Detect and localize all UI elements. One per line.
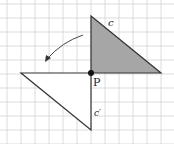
label-p: P: [93, 76, 101, 89]
image-triangle-c-prime: [21, 73, 91, 130]
rotation-arrow-icon: [47, 35, 83, 59]
label-c: c: [108, 17, 114, 28]
label-c-prime: c′: [94, 108, 101, 118]
rotation-diagram: c P c′: [0, 0, 174, 144]
original-triangle-c: [91, 16, 161, 73]
